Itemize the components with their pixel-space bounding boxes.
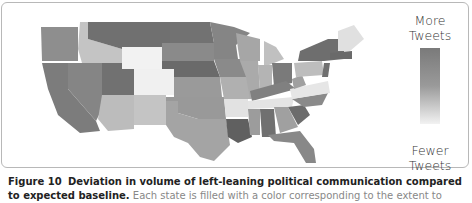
legend-more-text: More — [394, 13, 466, 28]
state-wy — [122, 47, 162, 69]
state-fl — [268, 131, 316, 163]
caption-label: Figure 10 — [8, 176, 62, 187]
state-sd — [162, 43, 214, 61]
us-choropleth-map — [38, 19, 378, 164]
state-nd — [170, 22, 214, 43]
state-ne-upper — [338, 25, 364, 51]
legend-high-label: More Tweets — [394, 13, 466, 43]
state-nm — [134, 95, 166, 125]
state-al — [260, 109, 276, 137]
color-legend: More Tweets Fewer Tweets — [394, 13, 466, 173]
figure-frame: More Tweets Fewer Tweets — [1, 2, 469, 168]
figure-caption: Figure 10 Deviation in volume of left-le… — [8, 175, 470, 203]
state-az — [98, 95, 134, 131]
legend-fewer-text: Fewer — [394, 143, 466, 158]
legend-tweets-text: Tweets — [394, 28, 466, 43]
state-nj — [322, 63, 330, 77]
state-ks — [174, 77, 222, 97]
state-wa — [41, 27, 78, 61]
legend-gradient-bar — [420, 48, 440, 124]
state-pa — [294, 61, 324, 77]
legend-tweets-text-2: Tweets — [394, 158, 466, 173]
state-la — [226, 119, 252, 143]
state-ar — [224, 99, 248, 117]
legend-low-label: Fewer Tweets — [394, 143, 466, 173]
state-ms — [248, 109, 260, 135]
state-wi — [236, 33, 260, 61]
state-co — [134, 69, 174, 95]
